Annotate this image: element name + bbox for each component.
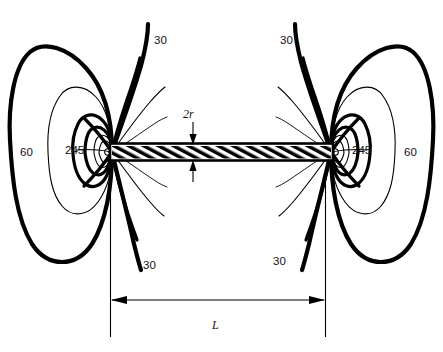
field-line-upper-right-a bbox=[303, 58, 331, 152]
diameter-label: 2r bbox=[183, 107, 194, 121]
label-30-top-left: 30 bbox=[154, 34, 167, 46]
label-30-bottom-right: 30 bbox=[273, 255, 286, 267]
hatched-bar bbox=[110, 144, 333, 161]
label-245-right: 245 bbox=[352, 144, 371, 156]
length-label: L bbox=[211, 318, 219, 332]
length-arrow-left bbox=[111, 296, 127, 304]
label-30-bottom-left: 30 bbox=[143, 259, 156, 271]
field-line-upper-left-a bbox=[112, 58, 140, 152]
contour-60-right bbox=[331, 46, 433, 262]
label-60-left: 60 bbox=[20, 146, 33, 158]
bar-hatching bbox=[112, 146, 331, 159]
diagram-svg: 2r L 60 245 245 60 30 30 30 30 bbox=[0, 0, 443, 352]
label-30-top-right: 30 bbox=[280, 34, 293, 46]
label-60-right: 60 bbox=[404, 146, 417, 158]
length-arrow-right bbox=[309, 296, 325, 304]
label-245-left: 245 bbox=[65, 144, 84, 156]
figure-canvas: 2r L 60 245 245 60 30 30 30 30 bbox=[0, 0, 443, 352]
